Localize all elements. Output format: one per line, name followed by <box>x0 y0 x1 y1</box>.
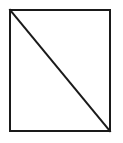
figure-canvas <box>0 0 123 143</box>
rectangle-with-diagonal-figure <box>0 0 123 143</box>
